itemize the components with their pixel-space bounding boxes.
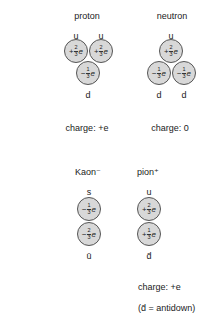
charge-unit: e	[187, 69, 191, 78]
quark-circle: + 23 e	[159, 39, 183, 63]
fraction: 23	[74, 45, 78, 58]
numerator: 1	[183, 67, 186, 73]
numerator: 2	[88, 228, 91, 234]
numerator: 1	[158, 67, 161, 73]
charge-unit: e	[174, 47, 178, 56]
charge-unit: e	[152, 230, 156, 239]
fraction: 13	[182, 67, 186, 80]
charge-unit: e	[91, 69, 95, 78]
charge-label: charge: +e	[66, 124, 109, 133]
particle-name: neutron	[157, 12, 188, 21]
fraction: 13	[87, 203, 91, 216]
charge-sign: +	[142, 230, 147, 239]
fraction: 23	[99, 45, 103, 58]
quark-circle: + 13 e	[137, 222, 161, 246]
charge-sign: +	[69, 47, 74, 56]
numerator: 2	[170, 45, 173, 51]
footnote: (d̄ = antidown)	[138, 304, 195, 313]
denominator: 3	[148, 210, 151, 216]
charge-sign: −	[152, 69, 157, 78]
cropped-label-fragment	[0, 0, 9, 4]
denominator: 3	[87, 74, 90, 80]
quark-flavor: d	[85, 91, 90, 100]
denominator: 3	[75, 52, 78, 58]
charge-unit: e	[104, 47, 108, 56]
particle-name: Kaon⁻	[75, 168, 101, 177]
charge-sign: +	[94, 47, 99, 56]
quark-flavor: d	[181, 91, 186, 100]
charge-unit: e	[92, 205, 96, 214]
numerator: 2	[75, 45, 78, 51]
fraction: 23	[87, 228, 91, 241]
fraction: 23	[169, 45, 173, 58]
fraction: 13	[147, 228, 151, 241]
charge-label: charge: 0	[151, 124, 189, 133]
quark-circle: − 13 e	[76, 61, 100, 85]
denominator: 3	[100, 52, 103, 58]
charge-unit: e	[162, 69, 166, 78]
charge-sign: −	[82, 205, 87, 214]
quark-flavor: u	[146, 188, 151, 197]
quark-flavor: ū	[86, 252, 91, 261]
quark-flavor: d	[156, 91, 161, 100]
numerator: 1	[88, 203, 91, 209]
quark-circle: − 13 e	[77, 197, 101, 221]
denominator: 3	[170, 52, 173, 58]
numerator: 2	[148, 203, 151, 209]
numerator: 1	[148, 228, 151, 234]
charge-unit: e	[92, 230, 96, 239]
quark-circle: − 13 e	[172, 61, 196, 85]
denominator: 3	[158, 74, 161, 80]
numerator: 2	[100, 45, 103, 51]
charge-sign: +	[142, 205, 147, 214]
denominator: 3	[183, 74, 186, 80]
particle-name: proton	[74, 12, 100, 21]
quark-circle: + 23 e	[64, 39, 88, 63]
charge-sign: −	[81, 69, 86, 78]
quark-flavor: s	[87, 188, 92, 197]
particle-name: pion⁺	[137, 168, 159, 177]
fraction: 13	[86, 67, 90, 80]
quark-circle: − 23 e	[77, 222, 101, 246]
denominator: 3	[88, 210, 91, 216]
charge-unit: e	[152, 205, 156, 214]
charge-sign: +	[164, 47, 169, 56]
quark-circle: + 23 e	[137, 197, 161, 221]
denominator: 3	[88, 235, 91, 241]
fraction: 23	[147, 203, 151, 216]
charge-sign: −	[177, 69, 182, 78]
charge-label: charge: +e	[138, 283, 181, 292]
quark-circle: − 13 e	[147, 61, 171, 85]
charge-sign: −	[82, 230, 87, 239]
denominator: 3	[148, 235, 151, 241]
quark-circle: + 23 e	[89, 39, 113, 63]
charge-unit: e	[79, 47, 83, 56]
quark-flavor: d̄	[146, 252, 151, 261]
numerator: 1	[87, 67, 90, 73]
fraction: 13	[157, 67, 161, 80]
